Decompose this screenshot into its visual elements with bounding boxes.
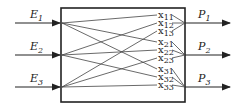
output-label-1: P1 [197,8,211,23]
input-labels: E1 E2 E3 [29,8,43,87]
input-label-2: E2 [29,40,43,55]
input-label-1: E1 [29,8,43,23]
output-label-3: P3 [197,72,211,87]
output-labels: P1 P2 P3 [197,8,211,87]
variable-labels: x11 x12 x13 x21 x22 x23 x31 x32 x33 [158,9,174,92]
output-label-2: P2 [197,40,211,55]
input-label-3: E3 [29,72,43,87]
allocation-diagram: E1 E2 E3 P1 P2 P3 x11 x12 x13 x21 x22 x2… [0,0,244,105]
